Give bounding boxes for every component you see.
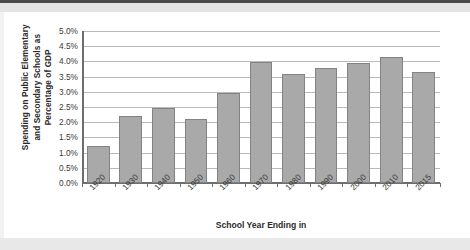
y-axis-tick-label: 1.5%	[44, 132, 78, 142]
y-axis-tick-label: 2.0%	[44, 117, 78, 127]
y-axis-tick-label: 4.5%	[44, 41, 78, 51]
bar-1970	[250, 62, 273, 183]
bar-chart: Spending on Public Elementary and Second…	[0, 12, 470, 238]
y-axis-title-line-1: Spending on Public Elementary	[20, 2, 32, 172]
y-axis-tick-label: 3.5%	[44, 72, 78, 82]
bar-2015	[412, 72, 435, 183]
page-top-shadow-artifact	[0, 3, 470, 12]
x-axis-tick-labels: 1920193019401950196019701980199020002010…	[82, 185, 440, 219]
y-axis-tick-labels: 0.0%0.5%1.0%1.5%2.0%2.5%3.0%3.5%4.0%4.5%…	[40, 31, 78, 183]
y-axis-tick-label: 1.0%	[44, 148, 78, 158]
y-axis-tick-label: 0.5%	[44, 163, 78, 173]
bar-2000	[347, 63, 370, 183]
bar-1990	[315, 68, 338, 183]
x-axis-tick	[440, 183, 441, 187]
y-axis-tick-label: 2.5%	[44, 102, 78, 112]
chart-page: Spending on Public Elementary and Second…	[0, 0, 470, 250]
x-axis-title: School Year Ending in	[82, 220, 440, 230]
bar-series	[82, 31, 440, 183]
bar-2010	[380, 57, 403, 183]
bar-1980	[282, 74, 305, 183]
plot-area	[82, 31, 440, 183]
bar-1960	[217, 93, 240, 183]
y-axis-tick-label: 5.0%	[44, 26, 78, 36]
page-bottom-shadow-artifact	[0, 238, 470, 250]
y-axis-tick-label: 3.0%	[44, 87, 78, 97]
y-axis-tick-label: 4.0%	[44, 56, 78, 66]
y-axis-tick-label: 0.0%	[44, 178, 78, 188]
